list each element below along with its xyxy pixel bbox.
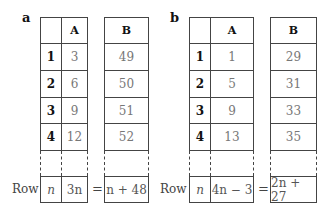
panel-b-general-index: n [189, 176, 211, 203]
panel-a-general-B: n + 48 [104, 176, 149, 203]
panel-a-row-3-A: 9 [61, 97, 88, 124]
panel-b-general-A: 4n − 3 [210, 176, 254, 203]
panel-a-header-B: B [104, 17, 149, 44]
panel-b-label: b [170, 10, 179, 25]
panel-b-row-label: Row [160, 182, 187, 196]
panel-a-row-1-index: 1 [40, 43, 62, 71]
panel-a-dashed-line [104, 151, 105, 176]
panel-b-header-index [189, 17, 211, 44]
panel-b-row-4-index: 4 [189, 123, 211, 151]
panel-b-row-3-A: 9 [210, 97, 254, 124]
panel-a-row-4-index: 4 [40, 123, 62, 151]
panel-a-label: a [22, 10, 30, 25]
panel-b-dashed-line [316, 151, 317, 176]
panel-b-row-2-index: 2 [189, 70, 211, 98]
panel-a-dashed-line [40, 151, 41, 176]
panel-b-header-A: A [210, 17, 254, 44]
panel-b-row-4-B: 35 [270, 123, 317, 151]
panel-b-dashed-line [253, 151, 254, 176]
panel-a-row-1-A: 3 [61, 43, 88, 71]
panel-a-dashed-line [148, 151, 149, 176]
panel-b-dashed-line [270, 151, 271, 176]
panel-a-row-3-B: 51 [104, 97, 149, 124]
panel-b-row-4-A: 13 [210, 123, 254, 151]
panel-b-row-3-index: 3 [189, 97, 211, 124]
panel-a-general-A: 3n [61, 176, 88, 203]
panel-a-dashed-line [87, 151, 88, 176]
panel-a-header-index [40, 17, 62, 44]
panel-a-header-A: A [61, 17, 88, 44]
panel-a-row-2-A: 6 [61, 70, 88, 98]
panel-a-row-label: Row [12, 182, 39, 196]
panel-a-dashed-line [61, 151, 62, 176]
panel-b-row-3-B: 33 [270, 97, 317, 124]
panel-a-row-2-B: 50 [104, 70, 149, 98]
panel-a-general-index: n [40, 176, 62, 203]
panel-b-row-1-index: 1 [189, 43, 211, 71]
panel-b-row-2-A: 5 [210, 70, 254, 98]
panel-b-equals-sign: = [258, 181, 269, 196]
panel-b-row-1-B: 29 [270, 43, 317, 71]
panel-a-row-4-B: 52 [104, 123, 149, 151]
panel-a-row-4-A: 12 [61, 123, 88, 151]
panel-b-row-1-A: 1 [210, 43, 254, 71]
panel-b-dashed-line [210, 151, 211, 176]
panel-b-header-B: B [270, 17, 317, 44]
panel-b-dashed-line [189, 151, 190, 176]
panel-b-row-2-B: 31 [270, 70, 317, 98]
panel-a-row-1-B: 49 [104, 43, 149, 71]
panel-b-general-B: 2n + 27 [270, 176, 317, 203]
panel-a-row-2-index: 2 [40, 70, 62, 98]
panel-a-equals-sign: = [92, 181, 103, 196]
panel-a-row-3-index: 3 [40, 97, 62, 124]
